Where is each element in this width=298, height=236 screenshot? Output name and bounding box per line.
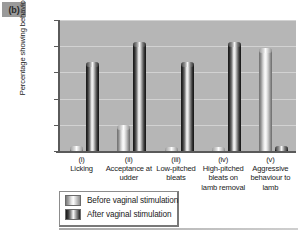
plot-area (58, 20, 296, 151)
x-axis-line (56, 151, 296, 153)
bar-before (259, 48, 272, 151)
legend-swatch-before-icon (65, 195, 81, 206)
bar-body (228, 45, 241, 151)
bar-after (86, 62, 99, 151)
gridline (60, 20, 296, 21)
category-label-5: (v)Aggressive behaviour to lamb (247, 155, 294, 192)
bar-before (117, 125, 130, 151)
bar-body (259, 51, 272, 151)
legend-label-after: After vaginal stimulation (87, 210, 171, 219)
category-label-2: (ii)Acceptance at udder (105, 155, 152, 183)
bar-top-cap (86, 62, 99, 67)
category-label-4: (iv)High-pitched bleats on lamb removal (200, 155, 247, 192)
category-name: Aggressive behaviour to lamb (247, 164, 294, 192)
legend-item-before: Before vaginal stimulation (65, 195, 178, 206)
bar-body (133, 45, 146, 151)
bar-top-cap (181, 62, 194, 67)
category-roman: (ii) (105, 155, 152, 164)
bar-body (181, 65, 194, 151)
legend-item-after: After vaginal stimulation (65, 209, 171, 220)
category-label-1: (i)Licking (58, 155, 105, 173)
bar-after (181, 62, 194, 151)
category-roman: (iii) (152, 155, 199, 164)
bar-top-cap (259, 48, 272, 53)
category-name: Licking (58, 164, 105, 173)
bar-top-cap (117, 125, 130, 130)
legend-swatch-after-icon (65, 209, 81, 220)
legend: Before vaginal stimulation After vaginal… (59, 191, 179, 227)
bar-top-cap (228, 42, 241, 47)
category-roman: (iv) (200, 155, 247, 164)
category-name: Low-pitched bleats (152, 164, 199, 182)
bar-body (117, 128, 130, 151)
category-label-3: (iii)Low-pitched bleats (152, 155, 199, 183)
category-roman: (v) (247, 155, 294, 164)
category-name: Acceptance at udder (105, 164, 152, 182)
bar-after (228, 42, 241, 151)
legend-label-before: Before vaginal stimulation (87, 196, 178, 205)
category-roman: (i) (58, 155, 105, 164)
category-name: High-pitched bleats on lamb removal (200, 164, 247, 192)
footer-divider (59, 228, 298, 230)
y-axis-title: Percentage showing behaviour (18, 0, 27, 119)
bar-after (133, 42, 146, 151)
bar-body (86, 65, 99, 151)
bar-top-cap (133, 42, 146, 47)
